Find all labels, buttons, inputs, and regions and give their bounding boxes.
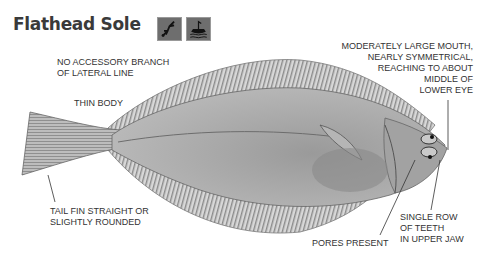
annotation-line: LOWER EYE bbox=[341, 85, 473, 96]
tail-fin-annotation: TAIL FIN STRAIGHT OR SLIGHTLY ROUNDED bbox=[50, 206, 149, 228]
annotation-line: MODERATELY LARGE MOUTH, bbox=[341, 41, 473, 52]
annotation-line: NO ACCESSORY BRANCH bbox=[57, 57, 169, 68]
thin-body-annotation: THIN BODY bbox=[74, 98, 123, 109]
lateral-line-annotation: NO ACCESSORY BRANCH OF LATERAL LINE bbox=[57, 57, 169, 79]
annotation-line: OF TEETH bbox=[400, 223, 464, 234]
annotation-line: TAIL FIN STRAIGHT OR bbox=[50, 206, 149, 217]
pores-annotation: PORES PRESENT bbox=[312, 238, 389, 249]
annotation-line: OF LATERAL LINE bbox=[57, 68, 169, 79]
annotation-line: SINGLE ROW bbox=[400, 212, 464, 223]
annotation-line: MIDDLE OF bbox=[341, 74, 473, 85]
annotation-line: IN UPPER JAW bbox=[400, 234, 464, 245]
annotation-line: NEARLY SYMMETRICAL, bbox=[341, 52, 473, 63]
teeth-annotation: SINGLE ROW OF TEETH IN UPPER JAW bbox=[400, 212, 464, 245]
mouth-annotation: MODERATELY LARGE MOUTH, NEARLY SYMMETRIC… bbox=[341, 41, 473, 96]
annotation-line: SLIGHTLY ROUNDED bbox=[50, 217, 149, 228]
annotation-line: REACHING TO ABOUT bbox=[341, 63, 473, 74]
